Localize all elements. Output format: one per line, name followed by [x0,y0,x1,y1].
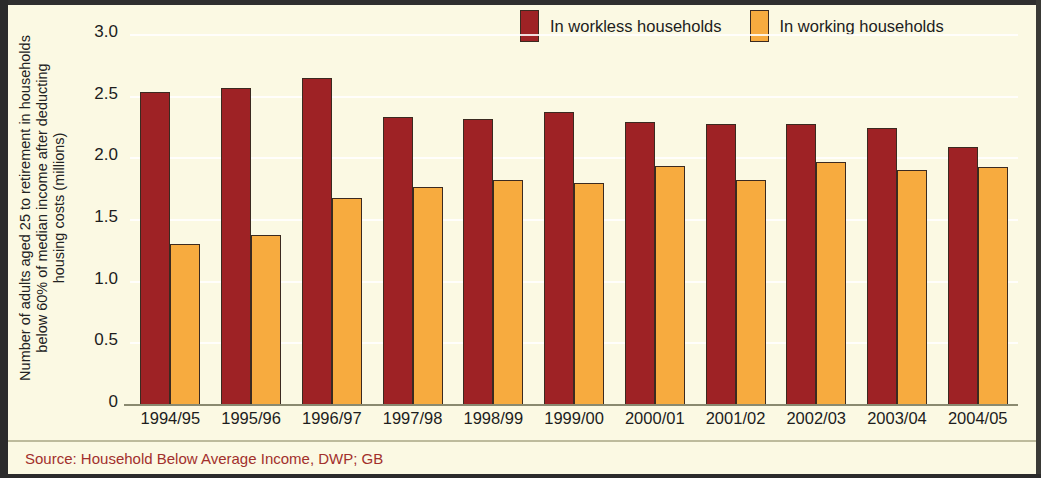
bar[interactable] [413,187,443,404]
footer-divider [8,440,1036,442]
bar[interactable] [655,166,685,404]
x-axis-tick-label: 2004/05 [937,409,1018,428]
y-axis-tick-label: 1.0 [94,269,118,289]
bar[interactable] [493,180,523,404]
y-axis-tick-label: 2.0 [94,145,118,165]
bar[interactable] [383,117,413,404]
plot-area: 3.02.52.01.51.00.50 1994/951995/961996/9… [130,20,1018,405]
frame-edge-right [1036,0,1041,478]
bar[interactable] [706,124,736,404]
bar[interactable] [140,92,170,404]
chart-figure: Number of adults aged 25 to retirement i… [0,0,1041,478]
source-note: Source: Household Below Average Income, … [25,450,383,467]
x-axis-tick-label: 1999/00 [534,409,615,428]
bar[interactable] [897,170,927,404]
bar-group [291,34,372,404]
x-axis-tick-label: 2002/03 [776,409,857,428]
x-axis-tick-label: 1998/99 [453,409,534,428]
bar[interactable] [867,128,897,404]
bar[interactable] [170,244,200,404]
y-axis-tick-label: 0 [109,392,118,412]
bar-group [857,34,938,404]
bar-group [614,34,695,404]
bar[interactable] [625,122,655,404]
bar[interactable] [302,78,332,404]
bar[interactable] [786,124,816,404]
x-axis-tick-label: 2001/02 [695,409,776,428]
bar[interactable] [574,183,604,404]
bar-group [453,34,534,404]
x-axis-tick-label: 2003/04 [857,409,938,428]
x-axis-tick-label: 1994/95 [130,409,211,428]
y-axis-tick-label: 1.5 [94,207,118,227]
y-axis-title-line-2: below 60% of median income after deducti… [34,8,51,408]
x-axis-tick-label: 2000/01 [614,409,695,428]
y-axis-tick-label: 0.5 [94,330,118,350]
y-axis-title: Number of adults aged 25 to retirement i… [14,8,70,408]
frame-edge-left [0,0,8,478]
y-axis-title-line-1: Number of adults aged 25 to retirement i… [17,8,34,408]
bar[interactable] [816,162,846,404]
x-axis-tick-label: 1997/98 [372,409,453,428]
y-axis-title-line-3: housing costs (millions) [51,8,68,408]
bar-group [937,34,1018,404]
bar[interactable] [544,112,574,404]
y-axis-tick-label: 3.0 [94,22,118,42]
axis-area: 3.02.52.01.51.00.50 [130,34,1018,404]
bar[interactable] [332,198,362,404]
bar-group [211,34,292,404]
x-axis-tick-labels: 1994/951995/961996/971997/981998/991999/… [130,409,1018,428]
frame-edge-bottom [0,474,1041,478]
x-axis-tick-label: 1995/96 [211,409,292,428]
bar-group [534,34,615,404]
bar-group [130,34,211,404]
bar-group [695,34,776,404]
bar[interactable] [978,167,1008,404]
bar[interactable] [736,180,766,404]
y-axis-tick-label: 2.5 [94,84,118,104]
bar[interactable] [463,119,493,404]
x-axis-tick-label: 1996/97 [291,409,372,428]
bar[interactable] [221,88,251,404]
bar-group [372,34,453,404]
bar-group [776,34,857,404]
bar[interactable] [251,235,281,404]
bar-groups [130,34,1018,404]
bar[interactable] [948,147,978,404]
x-axis-baseline [124,404,1018,406]
